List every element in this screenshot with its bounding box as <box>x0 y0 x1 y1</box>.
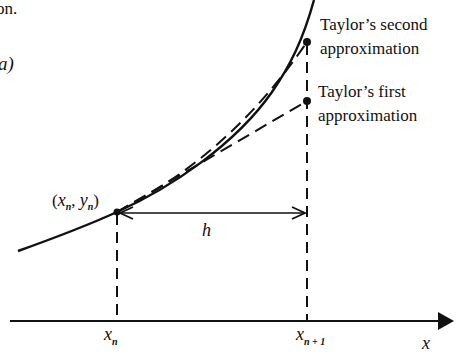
first-approx-label-line1: Taylor’s first <box>318 82 406 101</box>
fragment-left-text: a) <box>0 53 14 75</box>
second-approx-label-line1: Taylor’s second <box>320 15 428 34</box>
second-approximation-line <box>117 42 307 212</box>
point-label: (xn, yn) <box>52 190 99 212</box>
second-approximation-point <box>303 38 311 46</box>
axis-label-x: x <box>421 333 430 353</box>
x-axis-arrowhead-icon <box>438 312 454 330</box>
fragment-top-text: on. <box>0 0 17 18</box>
step-h-label: h <box>202 220 211 240</box>
first-approx-label-line2: approximation <box>318 106 418 125</box>
first-approximation-line <box>117 101 307 212</box>
second-approx-label-line2: approximation <box>320 39 420 58</box>
first-approximation-point <box>303 97 311 105</box>
point-xn-yn <box>114 209 121 216</box>
tick-label-xn1: xn + 1 <box>295 324 325 347</box>
taylor-diagram: on. a) h (xn, yn) xn xn + 1 x Taylor’s s… <box>0 0 462 354</box>
tick-label-xn: xn <box>103 324 118 347</box>
